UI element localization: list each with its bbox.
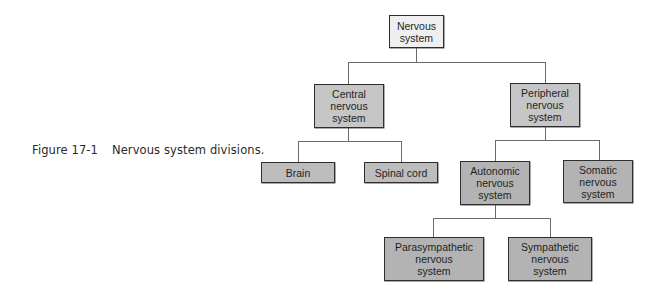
connector-autonomic-bar (433, 218, 550, 219)
connector-to-spinal-cord (401, 141, 402, 162)
connector-to-brain (298, 141, 299, 162)
node-label: Sympathetic nervous system (521, 241, 579, 277)
node-brain: Brain (261, 162, 335, 183)
connector-root-stem (416, 48, 417, 63)
node-sympathetic-nervous-system: Sympathetic nervous system (508, 237, 592, 281)
connector-peripheral-bar (495, 140, 599, 141)
connector-root-bar (348, 62, 545, 63)
connector-to-peripheral (545, 62, 546, 84)
figure-caption-text: Nervous system divisions. (112, 143, 265, 157)
connector-autonomic-stem (495, 204, 496, 218)
node-label: Somatic nervous system (579, 164, 617, 200)
node-label: Brain (286, 167, 311, 179)
connector-central-stem (348, 128, 349, 141)
node-parasympathetic-nervous-system: Parasympathetic nervous system (384, 237, 484, 281)
node-peripheral-nervous-system: Peripheral nervous system (510, 83, 580, 127)
connector-central-bar (298, 141, 401, 142)
node-spinal-cord: Spinal cord (364, 162, 438, 183)
node-label: Peripheral nervous system (521, 87, 569, 123)
figure-caption: Figure 17-1Nervous system divisions. (32, 143, 265, 157)
node-nervous-system: Nervous system (389, 15, 444, 48)
connector-to-parasympathetic (433, 218, 434, 237)
node-label: Parasympathetic nervous system (395, 241, 473, 277)
connector-to-central (348, 62, 349, 85)
connector-peripheral-stem (545, 126, 546, 140)
node-central-nervous-system: Central nervous system (314, 84, 384, 128)
connector-to-autonomic (495, 140, 496, 161)
figure-number: Figure 17-1 (32, 143, 98, 157)
node-somatic-nervous-system: Somatic nervous system (563, 160, 633, 203)
connector-to-sympathetic (550, 218, 551, 237)
node-label: Nervous system (397, 20, 436, 44)
node-autonomic-nervous-system: Autonomic nervous system (460, 161, 530, 205)
connector-to-somatic (599, 140, 600, 160)
node-label: Autonomic nervous system (470, 165, 520, 201)
node-label: Central nervous system (330, 88, 367, 124)
node-label: Spinal cord (375, 167, 428, 179)
